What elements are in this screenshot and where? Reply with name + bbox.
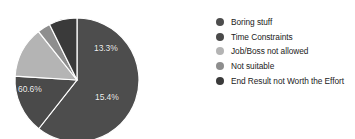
pie-svg: [0, 0, 210, 139]
pie-chart-figure: 60.6% 13.3% 15.4% Boring stuffTime Const…: [0, 0, 355, 139]
pie-slices: [15, 18, 139, 139]
legend-item[interactable]: Boring stuff: [216, 15, 355, 30]
legend-color-swatch-icon: [216, 62, 224, 70]
pie-slice-label-boring-stuff: 60.6%: [18, 84, 42, 94]
legend-item-label: Job/Boss not allowed: [231, 46, 308, 56]
legend-item-label: Time Constraints: [231, 32, 293, 42]
legend-color-swatch-icon: [216, 18, 224, 26]
legend-item-label: Not suitable: [231, 61, 274, 71]
legend-item[interactable]: Not suitable: [216, 59, 355, 74]
legend-color-swatch-icon: [216, 77, 224, 85]
pie-plot-area: 60.6% 13.3% 15.4%: [0, 0, 210, 139]
pie-slice-label-end-result-not-worth-the-effort: 15.4%: [95, 92, 119, 102]
legend-item-label: Boring stuff: [231, 17, 272, 27]
pie-slice-label-job-boss-not-allowed: 13.3%: [94, 43, 118, 53]
legend-item[interactable]: End Result not Worth the Effort: [216, 73, 355, 88]
legend-color-swatch-icon: [216, 33, 224, 41]
legend-item[interactable]: Time Constraints: [216, 30, 355, 45]
chart-legend: Boring stuffTime ConstraintsJob/Boss not…: [216, 15, 355, 88]
legend-item[interactable]: Job/Boss not allowed: [216, 44, 355, 59]
legend-color-swatch-icon: [216, 47, 224, 55]
legend-item-label: End Result not Worth the Effort: [231, 76, 344, 86]
